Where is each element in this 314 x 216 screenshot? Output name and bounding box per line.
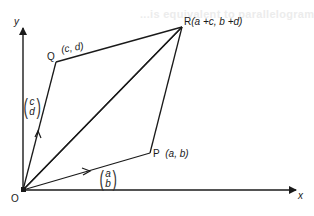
vector-oq-label: ( c d ) xyxy=(22,96,42,118)
right-paren-icon: ) xyxy=(36,96,40,118)
origin-label: O xyxy=(11,194,19,204)
vector-op xyxy=(23,153,150,190)
vector-op-label: ( a b ) xyxy=(98,168,118,190)
x-axis-label: x xyxy=(298,191,303,201)
left-paren-icon: ( xyxy=(99,168,103,190)
right-paren-icon: ) xyxy=(112,168,116,190)
point-r-label: R(a +c, b +d) xyxy=(184,17,242,27)
side-pr xyxy=(150,27,182,153)
point-p-coords: (a, b) xyxy=(165,148,188,159)
oq-arrow-icon xyxy=(35,131,41,138)
left-paren-icon: ( xyxy=(23,96,27,118)
point-r-coords: (a +c, b +d) xyxy=(191,16,242,27)
point-p-label: P (a, b) xyxy=(153,149,189,159)
y-axis-label: y xyxy=(14,17,19,27)
point-p-name: P xyxy=(153,148,160,159)
vector-oq xyxy=(23,62,56,190)
vector-op-bottom: b xyxy=(105,179,111,189)
parallelogram-diagram xyxy=(0,0,314,216)
vector-oq-bottom: d xyxy=(29,107,35,117)
origin-marker xyxy=(21,187,26,192)
point-q-label: Q xyxy=(47,52,55,62)
